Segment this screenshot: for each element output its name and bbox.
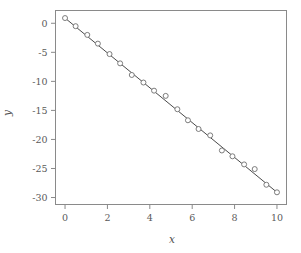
x-tick-label: 0 <box>62 212 68 223</box>
data-point <box>118 61 123 66</box>
data-point <box>107 52 112 57</box>
data-point <box>185 118 190 123</box>
x-tick-label: 8 <box>232 212 238 223</box>
x-tick-label: 2 <box>104 212 110 223</box>
data-point <box>196 126 201 131</box>
x-axis-title: x <box>169 233 175 245</box>
data-point <box>175 107 180 112</box>
y-tick-label: -10 <box>32 76 47 87</box>
data-point <box>242 162 247 167</box>
data-point <box>163 93 168 98</box>
data-point <box>152 88 157 93</box>
data-point <box>95 41 100 46</box>
y-tick-label: -25 <box>32 163 47 174</box>
data-point <box>73 24 78 29</box>
y-tick-label: -5 <box>38 47 47 58</box>
data-point <box>63 16 68 21</box>
data-point <box>208 133 213 138</box>
scatter-plot: 0246810 0-5-10-15-20-25-30 x y <box>0 0 301 253</box>
data-point <box>129 72 134 77</box>
y-tick-label: -15 <box>32 105 47 116</box>
y-tick-label: 0 <box>41 18 47 29</box>
y-tick-label: -20 <box>32 134 47 145</box>
data-point <box>141 80 146 85</box>
data-point <box>230 154 235 159</box>
x-tick-label: 10 <box>271 212 283 223</box>
chart-figure: 0246810 0-5-10-15-20-25-30 x y <box>0 0 301 253</box>
data-point <box>85 32 90 37</box>
data-point <box>252 167 257 172</box>
y-tick-label: -30 <box>32 192 47 203</box>
data-point <box>219 148 224 153</box>
plot-frame <box>56 11 287 205</box>
x-tick-label: 4 <box>147 212 153 223</box>
data-point <box>274 190 279 195</box>
data-point <box>264 182 269 187</box>
x-tick-label: 6 <box>189 212 195 223</box>
y-axis-title: y <box>1 109 13 117</box>
